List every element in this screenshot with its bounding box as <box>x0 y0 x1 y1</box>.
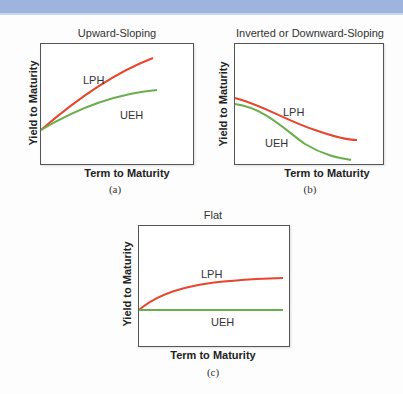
chart-a-xlabel: Term to Maturity <box>62 167 192 179</box>
chart-a-lph-label: LPH <box>83 74 104 86</box>
header-bar-edge <box>0 13 403 15</box>
chart-b-ylabel: Yield to Maturity <box>217 51 229 157</box>
chart-a-panel-label: (a) <box>100 183 130 195</box>
header-bar <box>0 0 403 13</box>
chart-b-xlabel: Term to Maturity <box>262 167 392 179</box>
chart-a-ylabel: Yield to Maturity <box>27 50 39 156</box>
chart-c-lines <box>139 226 289 346</box>
chart-a-ueh-label: UEH <box>120 109 143 121</box>
chart-b-lph-label: LPH <box>283 106 304 118</box>
chart-c-lph-label: LPH <box>201 268 222 280</box>
chart-b-lines <box>235 44 383 164</box>
chart-a-lines <box>41 44 193 164</box>
chart-b-panel-label: (b) <box>295 183 325 195</box>
chart-c-panel-label: (c) <box>198 366 228 378</box>
chart-c-lph-line <box>139 278 283 310</box>
chart-b-lph-line <box>235 98 357 140</box>
chart-b-ueh-label: UEH <box>265 137 288 149</box>
chart-c-ylabel: Yield to Maturity <box>121 231 133 337</box>
chart-a-title: Upward-Sloping <box>40 27 194 39</box>
chart-c-xlabel: Term to Maturity <box>148 349 278 361</box>
chart-b-title: Inverted or Downward-Sloping <box>224 27 396 39</box>
chart-c-title: Flat <box>138 209 288 221</box>
chart-c-ueh-label: UEH <box>211 316 234 328</box>
